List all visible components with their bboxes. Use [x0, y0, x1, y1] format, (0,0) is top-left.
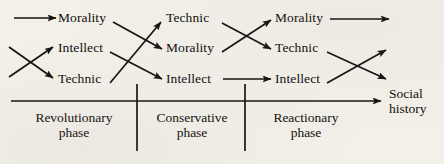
node-c3r2: Technic — [275, 41, 318, 55]
phase-label-3-line1: Reactionary — [256, 110, 356, 125]
axis-label-social-history: Social history — [389, 86, 427, 116]
node-c1r2: Intellect — [58, 41, 103, 55]
node-c2r1: Technic — [166, 11, 209, 25]
node-c3r3: Intellect — [275, 72, 320, 86]
phase-label-2-line1: Conservative — [146, 110, 238, 125]
axis-label-line2: history — [389, 101, 427, 116]
phase-label-3: Reactionary phase — [256, 110, 356, 140]
phase-label-3-line2: phase — [256, 125, 356, 140]
node-c1r1: Morality — [58, 11, 106, 25]
phase-label-2-line2: phase — [146, 125, 238, 140]
axis-label-line1: Social — [389, 86, 427, 101]
diagram-canvas: Morality Intellect Technic Technic Moral… — [0, 0, 444, 164]
arrow-c2morality-to-c3morality — [222, 20, 271, 52]
node-c1r3: Technic — [58, 72, 101, 86]
arrow-c3technic-out — [327, 52, 386, 79]
phase-label-1-line1: Revolutionary — [14, 110, 134, 125]
phase-label-1-line2: phase — [14, 125, 134, 140]
phase-label-1: Revolutionary phase — [14, 110, 134, 140]
node-c3r1: Morality — [275, 11, 323, 25]
arrow-c1morality-to-c2morality — [113, 22, 162, 49]
node-c2r3: Intellect — [166, 72, 211, 86]
node-c2r2: Morality — [166, 41, 214, 55]
phase-label-2: Conservative phase — [146, 110, 238, 140]
arrow-c3intellect-out — [327, 50, 386, 83]
